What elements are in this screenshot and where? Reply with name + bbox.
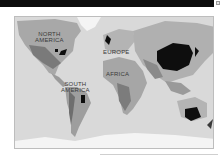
label-north-america: NORTH AMERICA [35,31,64,43]
new-zealand [207,119,213,129]
south-america [65,87,91,137]
label-africa: AFRICA [106,71,129,77]
restore-icon[interactable] [216,1,220,5]
greenland [77,17,101,31]
title-bar [0,0,214,7]
antarctica [15,133,214,149]
divider [100,154,218,155]
label-europe: EUROPE [103,49,130,55]
world-map: NORTH AMERICA SOUTH AMERICA EUROPE AFRIC… [14,16,214,149]
label-south-america: SOUTH AMERICA [61,81,90,93]
